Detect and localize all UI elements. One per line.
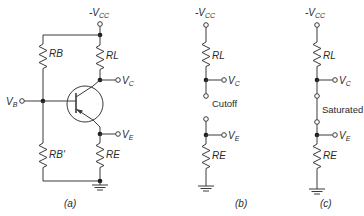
panel-c: -VCC RL VC Saturated VE RE (c) (305, 7, 363, 209)
resistor-rl-a (96, 45, 104, 70)
closed-switch-top-c (315, 94, 320, 99)
vc-terminal-c (333, 78, 338, 83)
vc-terminal-a (116, 78, 121, 83)
vb-label: VB (6, 96, 18, 108)
re-label-a: RE (106, 149, 120, 160)
re-label-b: RE (212, 150, 226, 161)
panel-a: -VCC RB RL VC VB (6, 7, 135, 209)
ve-label-a: VE (122, 129, 134, 141)
ve-terminal-c (333, 133, 338, 138)
rb-prime-label: RB' (49, 149, 66, 160)
cutoff-label: Cutoff (212, 98, 238, 109)
panel-b: -VCC RL VC Cutoff VE RE (b) (195, 7, 247, 209)
circuit-diagram: -VCC RB RL VC VB (0, 0, 364, 216)
open-switch-top-b (204, 94, 209, 99)
ground-icon (309, 189, 325, 194)
ve-terminal-a (116, 132, 121, 137)
supply-label-a: -VCC (89, 7, 110, 19)
supply-label-c: -VCC (305, 7, 326, 19)
rl-label-c: RL (323, 50, 336, 61)
ve-terminal-b (222, 133, 227, 138)
closed-switch-bottom-c (315, 120, 320, 125)
vc-label-a: VC (122, 75, 135, 87)
resistor-rb (39, 44, 47, 69)
supply-terminal-c (315, 23, 320, 28)
vc-label-c: VC (339, 75, 352, 87)
ground-icon (92, 181, 108, 190)
supply-terminal-a (98, 22, 103, 27)
rb-label: RB (49, 48, 63, 59)
rl-label-b: RL (212, 50, 225, 61)
resistor-re-b (202, 144, 210, 169)
rl-label-a: RL (106, 50, 119, 61)
supply-terminal-b (204, 23, 209, 28)
ground-icon (198, 186, 214, 191)
resistor-rl-b (202, 42, 210, 67)
caption-a: (a) (64, 198, 76, 209)
caption-c: (c) (320, 198, 332, 209)
resistor-rl-c (313, 42, 321, 67)
caption-b: (b) (235, 198, 247, 209)
ve-label-c: VE (339, 130, 351, 142)
saturated-label: Saturated (322, 104, 363, 115)
resistor-rb-prime (39, 143, 47, 168)
ve-label-b: VE (228, 130, 240, 142)
open-switch-bottom-b (204, 117, 209, 122)
re-label-c: RE (323, 150, 337, 161)
resistor-re-c (313, 144, 321, 169)
vc-label-b: VC (228, 75, 241, 87)
supply-label-b: -VCC (195, 7, 216, 19)
resistor-re-a (96, 143, 104, 168)
pnp-transistor-icon (67, 80, 103, 134)
vc-terminal-b (222, 78, 227, 83)
vb-terminal (20, 99, 25, 104)
